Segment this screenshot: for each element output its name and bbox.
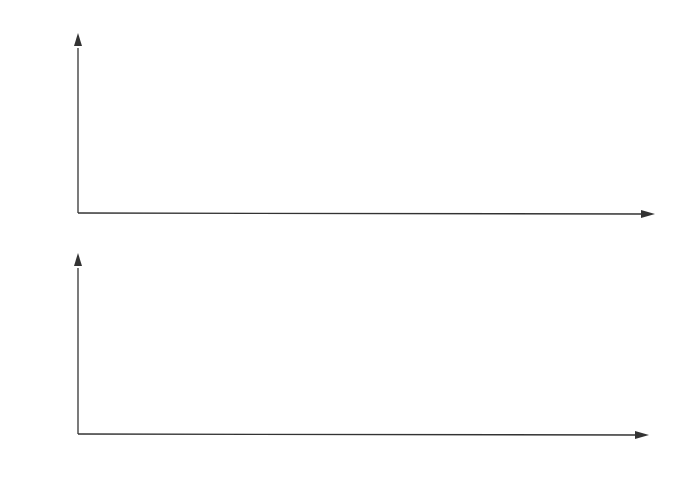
psd-x-axis-arrow-icon bbox=[641, 210, 655, 218]
noise-x-axis-arrow-icon bbox=[635, 431, 649, 439]
psd-y-axis-arrow-icon bbox=[74, 33, 82, 46]
noise-chart bbox=[74, 253, 649, 439]
psd-chart bbox=[0, 0, 655, 218]
noise-y-axis-arrow-icon bbox=[74, 253, 82, 266]
figure bbox=[0, 0, 685, 491]
psd-x-axis bbox=[78, 213, 642, 214]
noise-x-axis bbox=[78, 434, 636, 435]
